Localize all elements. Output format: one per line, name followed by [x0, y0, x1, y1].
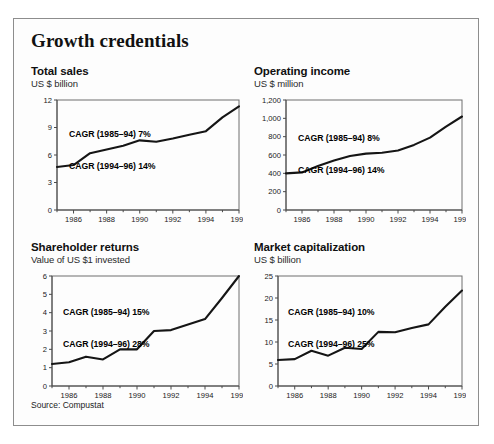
svg-text:5: 5 [43, 290, 47, 299]
svg-text:1990: 1990 [358, 215, 375, 224]
cagr-line-1: CAGR (1985–94) 10% [288, 307, 375, 318]
chart-subtitle: US $ million [254, 78, 466, 89]
svg-text:1: 1 [43, 363, 47, 372]
cagr-line-2: CAGR (1994–96) 25% [288, 339, 375, 350]
svg-text:1988: 1988 [98, 215, 115, 224]
svg-text:1996: 1996 [231, 215, 243, 224]
svg-text:4: 4 [43, 308, 47, 317]
chart-title: Total sales [31, 65, 243, 78]
svg-text:1992: 1992 [164, 215, 181, 224]
svg-text:25: 25 [265, 272, 273, 281]
source-note: Source: Compustat [31, 400, 104, 410]
svg-text:1,200: 1,200 [262, 96, 281, 105]
svg-text:1986: 1986 [286, 391, 303, 400]
svg-text:1990: 1990 [353, 391, 370, 400]
svg-text:1988: 1988 [326, 215, 343, 224]
svg-text:1986: 1986 [65, 215, 82, 224]
cagr-annotation: CAGR (1985–94) 10% CAGR (1994–96) 25% [288, 286, 375, 370]
svg-text:9: 9 [48, 123, 52, 132]
svg-text:1992: 1992 [163, 391, 180, 400]
svg-text:3: 3 [43, 327, 47, 336]
chart-plot-area: 0510152025198619881990199219941996 CAGR … [254, 270, 466, 404]
cagr-annotation: CAGR (1985–94) 7% CAGR (1994–96) 14% [69, 108, 156, 192]
chart-panel-total-sales: Total sales US $ billion 036912198619881… [31, 65, 243, 233]
svg-text:1996: 1996 [231, 391, 243, 400]
cagr-annotation: CAGR (1985–94) 15% CAGR (1994–96) 28% [63, 286, 150, 370]
svg-text:1996: 1996 [454, 215, 466, 224]
chart-subtitle: US $ billion [31, 78, 243, 89]
svg-text:2: 2 [43, 345, 47, 354]
svg-text:1992: 1992 [390, 215, 407, 224]
svg-text:800: 800 [268, 132, 281, 141]
svg-text:1990: 1990 [129, 391, 146, 400]
svg-text:1996: 1996 [454, 391, 466, 400]
svg-text:400: 400 [268, 169, 281, 178]
chart-panel-shareholder-returns: Shareholder returns Value of US $1 inves… [31, 241, 243, 409]
cagr-line-2: CAGR (1994–96) 28% [63, 339, 150, 350]
chart-plot-area: 0123456198619881990199219941996 CAGR (19… [31, 270, 243, 404]
chart-title: Market capitalization [254, 241, 466, 254]
cagr-annotation: CAGR (1985–94) 8% CAGR (1994–96) 14% [298, 112, 385, 196]
svg-text:5: 5 [269, 360, 273, 369]
chart-panel-operating-income: Operating income US $ million 0200400600… [254, 65, 466, 233]
svg-text:1994: 1994 [422, 215, 439, 224]
chart-panel-market-capitalization: Market capitalization US $ billion 05101… [254, 241, 466, 409]
cagr-line-2: CAGR (1994–96) 14% [69, 161, 156, 172]
svg-text:0: 0 [43, 382, 47, 391]
svg-text:1992: 1992 [387, 391, 404, 400]
chart-plot-area: 02004006008001,0001,20019861988199019921… [254, 94, 466, 228]
page-title: Growth credentials [31, 30, 189, 52]
cagr-line-1: CAGR (1985–94) 8% [298, 133, 385, 144]
svg-text:600: 600 [268, 151, 281, 160]
svg-text:200: 200 [268, 187, 281, 196]
svg-text:0: 0 [277, 206, 281, 215]
svg-text:1986: 1986 [61, 391, 78, 400]
svg-text:1988: 1988 [95, 391, 112, 400]
svg-text:10: 10 [265, 338, 273, 347]
svg-text:1988: 1988 [320, 391, 337, 400]
chart-title: Shareholder returns [31, 241, 243, 254]
chart-subtitle: Value of US $1 invested [31, 254, 243, 265]
cagr-line-1: CAGR (1985–94) 15% [63, 307, 150, 318]
svg-text:1994: 1994 [197, 215, 214, 224]
svg-text:20: 20 [265, 294, 273, 303]
cagr-line-1: CAGR (1985–94) 7% [69, 129, 156, 140]
chart-subtitle: US $ billion [254, 254, 466, 265]
cagr-line-2: CAGR (1994–96) 14% [298, 165, 385, 176]
svg-text:12: 12 [44, 96, 52, 105]
svg-text:1994: 1994 [420, 391, 437, 400]
svg-text:0: 0 [48, 206, 52, 215]
svg-text:6: 6 [48, 151, 52, 160]
svg-text:15: 15 [265, 316, 273, 325]
svg-text:3: 3 [48, 178, 52, 187]
svg-text:6: 6 [43, 272, 47, 281]
svg-text:1986: 1986 [294, 215, 311, 224]
chart-plot-area: 036912198619881990199219941996 CAGR (198… [31, 94, 243, 228]
svg-text:1,000: 1,000 [262, 114, 281, 123]
svg-text:1994: 1994 [197, 391, 214, 400]
exhibit-panel: Growth credentials Total sales US $ bill… [13, 18, 479, 426]
svg-text:1990: 1990 [131, 215, 148, 224]
chart-title: Operating income [254, 65, 466, 78]
svg-text:0: 0 [269, 382, 273, 391]
